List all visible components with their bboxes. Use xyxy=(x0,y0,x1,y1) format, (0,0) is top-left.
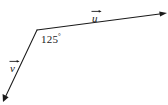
vector-u-letter-wrap: u xyxy=(92,13,98,24)
vector-diagram-canvas xyxy=(0,0,168,105)
vector-u-label: u xyxy=(92,9,98,25)
vector-u-overarrow-icon xyxy=(91,8,102,13)
vector-u-letter: u xyxy=(92,12,98,24)
vector-v-group xyxy=(3,30,37,102)
vector-v-overarrow-icon xyxy=(9,58,20,63)
angle-label: 125° xyxy=(41,33,61,45)
vector-u-group xyxy=(37,12,167,30)
vector-angle-figure: 125° u v xyxy=(0,0,168,105)
vector-u-shaft xyxy=(37,14,162,30)
vector-v-letter: v xyxy=(10,62,15,74)
vector-v-label: v xyxy=(10,59,15,75)
angle-value: 125 xyxy=(41,33,58,45)
degree-symbol: ° xyxy=(58,32,61,40)
vector-u-arrowhead xyxy=(159,12,167,17)
vector-v-letter-wrap: v xyxy=(10,63,15,74)
